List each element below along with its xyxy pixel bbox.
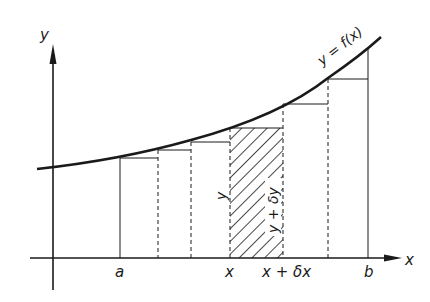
y-axis-arrow-icon [50, 44, 57, 64]
strip-height-y-label: y [213, 191, 229, 201]
x-axis-arrow-icon [384, 255, 402, 262]
tick-a-label: a [115, 263, 124, 281]
strip-height-y-plus-dy-label: y + δy [265, 187, 281, 234]
x-axis [30, 255, 402, 262]
integral-strip-diagram: y x y = f(x) a x x + δx b y y + δy [0, 0, 430, 302]
curve-label: y = f(x) [313, 23, 365, 69]
tick-x-plus-dx-label: x + δx [261, 263, 311, 281]
tick-x-label: x [224, 263, 234, 281]
tick-b-label: b [364, 263, 374, 281]
x-axis-label: x [404, 251, 414, 269]
y-axis-label: y [39, 26, 50, 44]
